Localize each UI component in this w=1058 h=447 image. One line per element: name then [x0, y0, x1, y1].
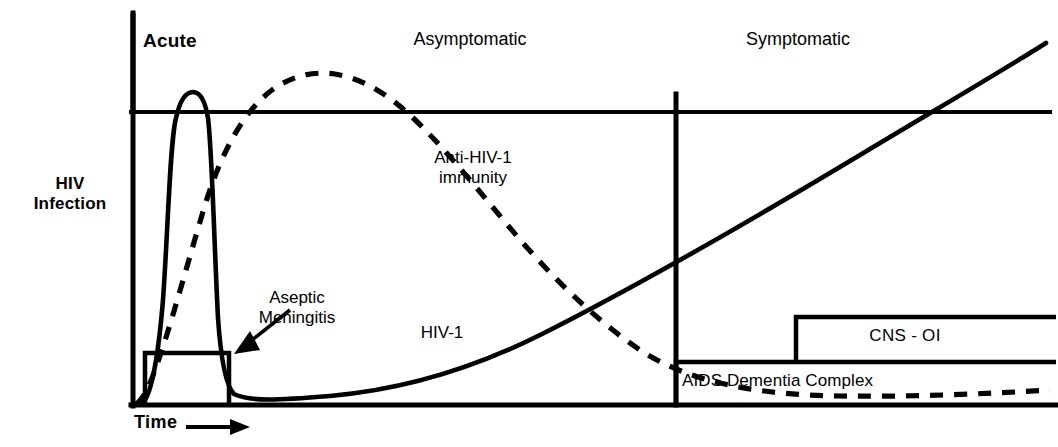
x-axis-label: Time [134, 412, 177, 433]
box-label-aids-dementia-complex: AIDS Dementia Complex [682, 371, 873, 391]
curve-label-anti-hiv1-immunity: Anti-HIV-1 immunity [398, 148, 548, 187]
annotation-label-aseptic-meningitis: Aseptic Meningitis [237, 288, 357, 327]
time-arrow-icon [186, 419, 250, 435]
hiv1-curve [140, 43, 1046, 404]
phase-label-acute: Acute [143, 30, 197, 52]
hiv-infection-diagram: HIV Infection Acute Asymptomatic Symptom… [0, 0, 1058, 447]
box-label-cns-oi: CNS - OI [830, 326, 980, 346]
phase-label-symptomatic: Symptomatic [700, 29, 896, 50]
diagram-canvas [0, 0, 1058, 447]
curve-label-hiv1: HIV-1 [397, 323, 487, 343]
phase-label-asymptomatic: Asymptomatic [370, 29, 570, 50]
y-axis-label: HIV Infection [18, 174, 122, 213]
